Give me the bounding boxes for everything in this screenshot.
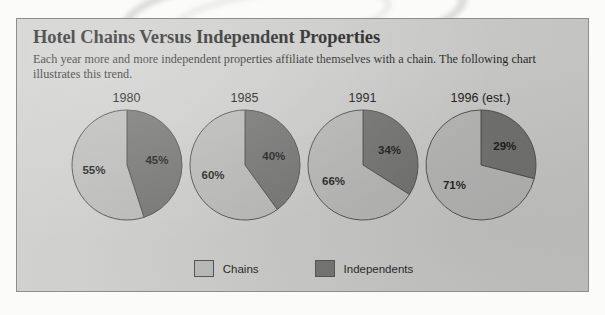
pie-chart-1980: 198045%55% (68, 91, 186, 222)
pie-graphic: 29%71% (424, 108, 538, 222)
chart-legend: ChainsIndependents (17, 260, 589, 277)
pie-graphic: 40%60% (188, 108, 302, 222)
pie-graphic: 45%55% (70, 108, 184, 222)
pie-value-independents: 34% (378, 144, 401, 156)
pie-chart-1991: 199134%66% (304, 91, 422, 222)
pie-value-chains: 60% (202, 169, 225, 181)
legend-item-chains: Chains (194, 260, 259, 277)
chart-panel: Hotel Chains Versus Independent Properti… (16, 18, 589, 292)
pie-chart-group: 198045%55%198540%60%199134%66%1996 (est.… (17, 91, 589, 222)
pie-value-chains: 55% (82, 164, 105, 176)
legend-label: Chains (223, 263, 259, 275)
pie-year-label: 1996 (est.) (451, 91, 511, 105)
pie-year-label: 1985 (231, 91, 259, 105)
pie-value-independents: 40% (262, 150, 285, 162)
pie-value-independents: 29% (493, 140, 516, 152)
legend-swatch-icon (315, 260, 335, 277)
pie-year-label: 1980 (113, 91, 141, 105)
pie-chart-1996-est-: 1996 (est.)29%71% (422, 91, 540, 222)
pie-year-label: 1991 (349, 91, 377, 105)
scanned-chart-page: Hotel Chains Versus Independent Properti… (0, 0, 605, 315)
page-title: Hotel Chains Versus Independent Properti… (33, 27, 380, 48)
pie-graphic: 34%66% (306, 108, 420, 222)
legend-swatch-icon (194, 260, 214, 277)
pie-value-independents: 45% (145, 154, 168, 166)
pie-value-chains: 66% (322, 175, 345, 187)
page-subtitle: Each year more and more independent prop… (33, 52, 573, 81)
pie-chart-1985: 198540%60% (186, 91, 304, 222)
legend-label: Independents (344, 263, 414, 275)
pie-value-chains: 71% (443, 179, 466, 191)
legend-item-independents: Independents (315, 260, 414, 277)
